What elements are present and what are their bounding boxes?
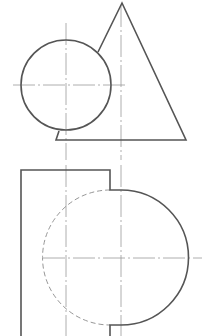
hidden-arc	[43, 190, 110, 325]
front-view	[21, 165, 202, 336]
block-and-semicircle-outline	[21, 170, 188, 336]
orthographic-drawing	[0, 0, 210, 336]
top-view	[13, 3, 186, 160]
